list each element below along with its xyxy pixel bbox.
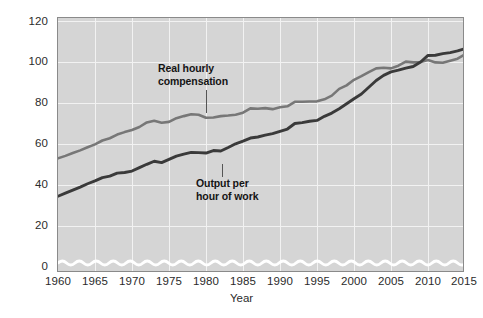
annotation-line-1: Real hourly <box>158 62 228 75</box>
y-tick-label: 80 <box>0 96 48 108</box>
line-output-per-hour <box>58 49 464 197</box>
chart-figure: Index (2009 = 100) 0 20 40 60 80 100 120… <box>0 0 483 318</box>
plot-area <box>57 17 464 272</box>
y-tick-label: 0 <box>0 260 48 272</box>
y-tick-label: 120 <box>0 15 48 27</box>
y-tick-label: 20 <box>0 219 48 231</box>
annotation-line-2: compensation <box>158 75 228 88</box>
axis-break-squiggle <box>58 261 464 265</box>
leader-line-compensation <box>206 90 207 113</box>
x-axis-label: Year <box>0 292 483 304</box>
annotation-line-1: Output per <box>196 177 258 190</box>
series-lines <box>58 18 464 272</box>
x-tick-label: 2015 <box>441 275 483 287</box>
annotation-output-per-hour: Output per hour of work <box>196 177 258 203</box>
y-tick-label: 60 <box>0 137 48 149</box>
annotation-real-hourly-compensation: Real hourly compensation <box>158 62 228 88</box>
y-tick-label: 40 <box>0 178 48 190</box>
annotation-line-2: hour of work <box>196 190 258 203</box>
leader-line-output <box>222 164 223 177</box>
y-tick-label: 100 <box>0 55 48 67</box>
